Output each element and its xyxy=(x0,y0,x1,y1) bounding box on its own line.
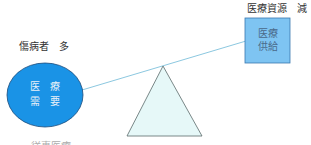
medical-demand-text-line2: 需 要 xyxy=(25,95,65,109)
fulcrum-triangle xyxy=(127,66,202,136)
patients-many-label: 傷病者 多 xyxy=(19,42,69,52)
medical-demand-text-line1: 医 療 xyxy=(25,80,65,94)
medical-supply-text-line2: 供給 xyxy=(245,40,290,53)
bottom-partial-text: ・・ 従事医療 xyxy=(8,138,71,145)
medical-supply-text-line1: 医療 xyxy=(245,27,290,40)
balance-diagram xyxy=(0,0,311,145)
medical-resources-decrease-label: 医療資源 減 xyxy=(247,4,307,14)
